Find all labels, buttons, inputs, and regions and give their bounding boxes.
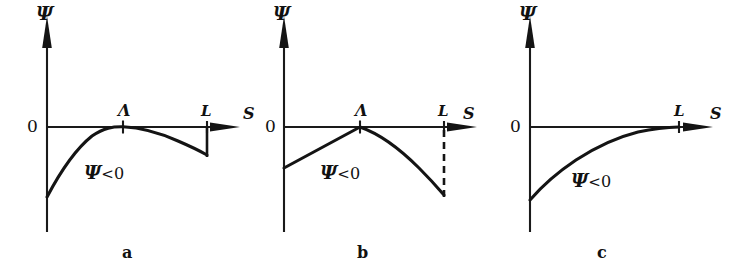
panel-a-inequality-operator: < <box>101 165 114 183</box>
panel-c-caption: c <box>597 245 607 261</box>
panel-c-inequality-annotation: Ψ<0 <box>571 171 611 190</box>
panel-b-inequality-value: 0 <box>350 164 360 183</box>
panel-c-inequality-psi: Ψ <box>571 169 588 191</box>
panel-a-inequality-psi: Ψ <box>84 161 101 183</box>
panel-a-inequality-annotation: Ψ<0 <box>84 163 124 182</box>
panel-b-caption: b <box>357 245 368 261</box>
panel-b-y-axis-label: Ψ <box>273 4 290 23</box>
panel-a-y-axis-label: Ψ <box>36 4 53 23</box>
panel-b-x-axis-label: S <box>463 106 475 122</box>
panel-c-inequality-operator: < <box>588 173 601 191</box>
panel-a-curve <box>47 127 207 197</box>
panel-c-y-axis-label: Ψ <box>519 4 536 23</box>
panel-c-x-axis-label: S <box>710 106 722 122</box>
panel-c-L-label: L <box>674 104 685 119</box>
panel-a-lambda-label: Λ <box>118 103 130 119</box>
panel-a-L-label: L <box>201 104 212 119</box>
panel-c-x-axis-arrow <box>683 122 713 131</box>
panel-a-origin-label: 0 <box>27 118 38 135</box>
figure-root: Ψ 0 Λ L S Ψ<0 a Ψ 0 Λ L S Ψ<0 b Ψ 0 L S … <box>0 0 741 279</box>
panel-c-inequality-value: 0 <box>601 172 611 191</box>
panel-c-origin-label: 0 <box>510 118 521 135</box>
panel-b-inequality-annotation: Ψ<0 <box>320 163 360 182</box>
panel-b-graph <box>237 0 487 279</box>
panel-c-graph <box>480 0 741 279</box>
panel-a-inequality-value: 0 <box>114 164 124 183</box>
panel-a-x-axis-label: S <box>243 106 255 122</box>
panel-b-origin-label: 0 <box>265 118 276 135</box>
panel-a-caption: a <box>122 245 132 261</box>
panel-b-curve <box>284 127 444 195</box>
panel-b-L-label: L <box>438 104 449 119</box>
panel-a-x-axis-arrow <box>210 122 240 131</box>
panel-b-inequality-operator: < <box>337 165 350 183</box>
panel-a-graph <box>0 0 250 279</box>
panel-b-lambda-label: Λ <box>355 103 367 119</box>
panel-b-x-axis-arrow <box>447 122 477 131</box>
panel-b-inequality-psi: Ψ <box>320 161 337 183</box>
